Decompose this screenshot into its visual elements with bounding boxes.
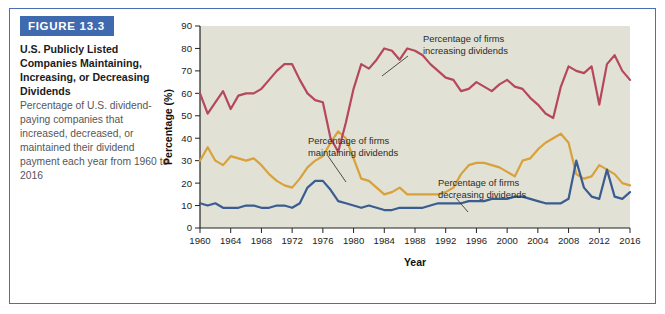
annotation-line2: increasing dividends — [423, 45, 508, 56]
y-axis-tick-label: 30 — [181, 155, 192, 166]
x-axis-tick-label: 1996 — [466, 235, 487, 246]
figure-container: FIGURE 13.3 U.S. Publicly Listed Compani… — [0, 0, 665, 314]
figure-caption-column: FIGURE 13.3 U.S. Publicly Listed Compani… — [20, 16, 172, 183]
x-axis-tick-label: 2012 — [589, 235, 610, 246]
y-axis-tick-label: 90 — [181, 20, 192, 31]
x-axis-tick-label: 2000 — [496, 235, 517, 246]
y-axis-tick-label: 60 — [181, 88, 192, 99]
figure-title: U.S. Publicly Listed Companies Maintaini… — [20, 42, 172, 98]
y-axis-tick-label: 20 — [181, 178, 192, 189]
x-axis-tick-label: 2004 — [527, 235, 549, 246]
y-axis-tick-label: 10 — [181, 200, 192, 211]
x-axis-tick-label: 1984 — [374, 235, 396, 246]
x-axis-tick-label: 1992 — [435, 235, 456, 246]
y-axis-title: Percentage (%) — [162, 89, 174, 165]
annotation-line2: decreasing dividends — [438, 189, 526, 200]
y-axis-tick-label: 70 — [181, 65, 192, 76]
x-axis-tick-label: 2016 — [619, 235, 640, 246]
annotation-line1: Percentage of firms — [308, 135, 390, 146]
annotation-line1: Percentage of firms — [423, 33, 505, 44]
y-axis-tick-label: 50 — [181, 110, 192, 121]
y-axis-tick-label: 40 — [181, 133, 192, 144]
x-axis-tick-label: 1980 — [343, 235, 364, 246]
x-axis-tick-label: 2008 — [558, 235, 579, 246]
y-axis-tick-label: 0 — [187, 222, 192, 233]
figure-number-banner: FIGURE 13.3 — [20, 16, 114, 36]
x-axis-tick-label: 1964 — [220, 235, 242, 246]
x-axis-tick-label: 1972 — [281, 235, 302, 246]
figure-description: Percentage of U.S. dividend-paying compa… — [20, 99, 172, 182]
line-chart-svg: 0102030405060708090196019641968197219761… — [160, 14, 652, 292]
x-axis-title: Year — [404, 256, 426, 268]
y-axis-tick-label: 80 — [181, 43, 192, 54]
x-axis-tick-label: 1988 — [404, 235, 425, 246]
annotation-line2: maintaining dividends — [308, 147, 398, 158]
annotation-line1: Percentage of firms — [438, 177, 520, 188]
x-axis-tick-label: 1968 — [251, 235, 272, 246]
x-axis-tick-label: 1976 — [312, 235, 333, 246]
chart-plot-area: 0102030405060708090196019641968197219761… — [160, 14, 652, 292]
x-axis-tick-label: 1960 — [189, 235, 210, 246]
plot-background — [200, 26, 630, 228]
